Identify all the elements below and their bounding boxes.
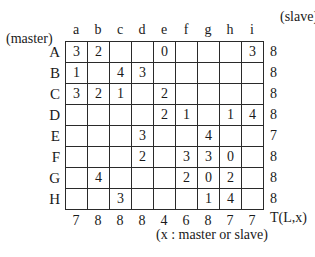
column-header: d [131,22,153,38]
column-total: 8 [87,213,109,229]
row-header: G [42,170,60,187]
matrix-cell: 2 [88,42,110,63]
matrix-cell [88,147,110,168]
matrix-cell [198,42,220,63]
column-header: c [109,22,131,38]
matrix-cell [220,84,242,105]
matrix-cell: 0 [220,147,242,168]
matrix-cell [242,168,264,189]
matrix-cell [132,168,154,189]
matrix-cell [198,84,220,105]
row-header: H [42,191,60,208]
matrix-row: 2114 [66,105,264,126]
matrix-cell [242,189,264,210]
matrix-cell [88,105,110,126]
matrix-row: 143 [66,63,264,84]
row-total: 8 [270,65,284,81]
row-total: 8 [270,170,284,186]
row-header: A [42,44,60,61]
row-total: 8 [270,86,284,102]
matrix-cell [154,126,176,147]
matrix-cell [220,63,242,84]
matrix-cell: 1 [176,105,198,126]
matrix-cell: 3 [110,189,132,210]
row-total: 8 [270,44,284,60]
column-total: 8 [109,213,131,229]
column-total: 7 [65,213,87,229]
slave-axis-label: (slave) [280,9,315,25]
row-header: C [42,86,60,103]
column-header: e [153,22,175,38]
matrix-cell [66,147,88,168]
matrix-cell [132,42,154,63]
matrix-cell [220,126,242,147]
matrix-cell: 3 [66,84,88,105]
matrix-row: 2330 [66,147,264,168]
matrix-cell [110,168,132,189]
column-header: h [219,22,241,38]
matrix-cell [242,84,264,105]
matrix-cell [242,126,264,147]
matrix-cell: 2 [154,84,176,105]
matrix-cell [110,147,132,168]
matrix-cell [88,63,110,84]
row-header: B [42,65,60,82]
matrix-cell [88,189,110,210]
matrix-cell [66,105,88,126]
row-header: E [42,128,60,145]
matrix-cell: 1 [220,105,242,126]
matrix-cell [132,105,154,126]
matrix-cell: 3 [132,63,154,84]
matrix-cell [110,42,132,63]
matrix-cell: 4 [220,189,242,210]
column-header: f [175,22,197,38]
matrix-cell: 2 [176,168,198,189]
matrix-cell [154,168,176,189]
matrix-cell: 1 [110,84,132,105]
row-header: D [42,107,60,124]
matrix-cell: 4 [242,105,264,126]
matrix-cell [242,147,264,168]
matrix-cell [176,42,198,63]
matrix-cell [198,105,220,126]
matrix-cell: 4 [110,63,132,84]
matrix-cell [110,126,132,147]
matrix-cell [154,63,176,84]
matrix-cell: 0 [154,42,176,63]
matrix-cell [242,63,264,84]
matrix-cell: 2 [132,147,154,168]
matrix-row: 34 [66,126,264,147]
row-header: F [42,149,60,166]
matrix-row: 3212 [66,84,264,105]
master-slave-matrix: 3203143321221143423304202314 [65,41,264,210]
total-label: T(L,x) [270,210,307,226]
matrix-cell [66,126,88,147]
matrix-cell [154,189,176,210]
column-total: 8 [131,213,153,229]
matrix-cell [132,84,154,105]
matrix-cell [154,147,176,168]
row-total: 8 [270,107,284,123]
matrix-cell [88,126,110,147]
matrix-cell: 2 [220,168,242,189]
matrix-cell: 3 [176,147,198,168]
matrix-cell [110,105,132,126]
matrix-row: 314 [66,189,264,210]
matrix-cell: 1 [66,63,88,84]
matrix-cell: 3 [132,126,154,147]
matrix-cell [220,42,242,63]
row-total: 8 [270,149,284,165]
matrix-cell: 4 [198,126,220,147]
matrix-row: 3203 [66,42,264,63]
matrix-cell [176,126,198,147]
matrix-cell [176,63,198,84]
column-header: a [65,22,87,38]
matrix-row: 4202 [66,168,264,189]
matrix-cell [198,63,220,84]
matrix-cell [176,84,198,105]
row-total: 8 [270,191,284,207]
column-header: b [87,22,109,38]
matrix-cell: 3 [66,42,88,63]
matrix-cell: 4 [88,168,110,189]
matrix-cell: 2 [88,84,110,105]
